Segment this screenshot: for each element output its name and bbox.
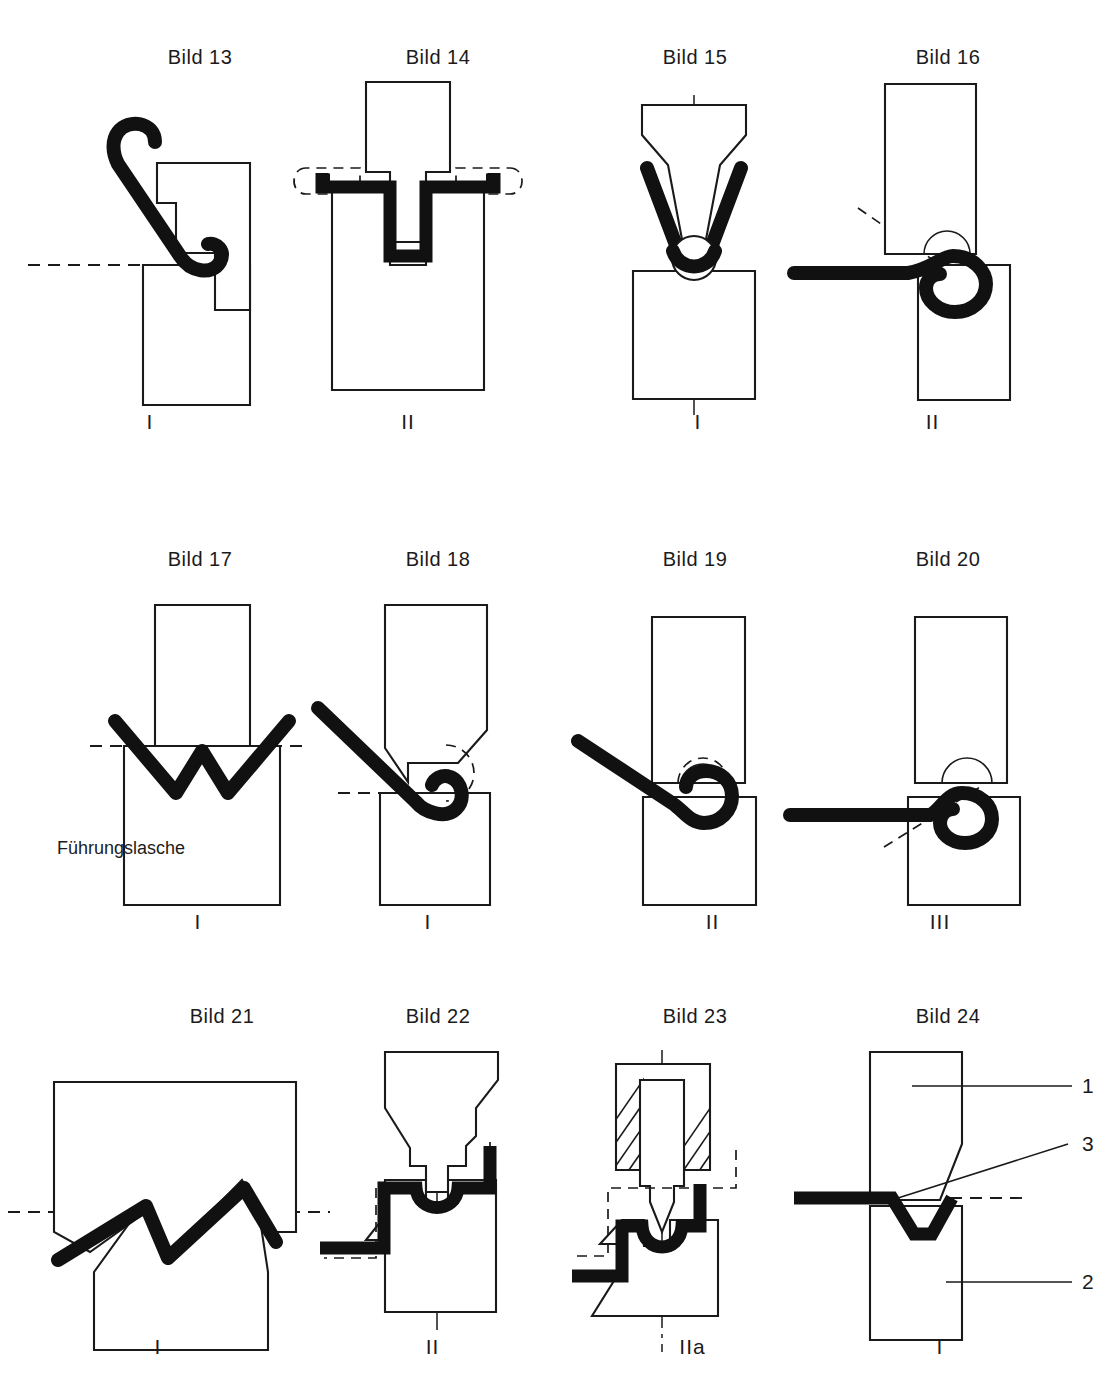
punch <box>385 1052 498 1192</box>
figure-bild-14 <box>260 60 560 410</box>
figure-bild-13 <box>0 60 300 410</box>
figure-roman-bild-23: IIa <box>665 1335 720 1359</box>
callout-label-2: 2 <box>1082 1270 1094 1294</box>
figure-roman-bild-21: I <box>138 1335 178 1359</box>
figure-bild-16 <box>790 60 1110 410</box>
upper-punch <box>870 1052 962 1200</box>
lower-die <box>592 1220 718 1316</box>
fuehrungslasche-label: Führungslasche <box>57 838 185 859</box>
callout-label-1: 1 <box>1082 1074 1094 1098</box>
drawing-plate: Bild 13 I Bild 14 <box>0 0 1110 1390</box>
figure-roman-bild-13: I <box>130 410 170 434</box>
plunger <box>640 1080 684 1232</box>
lower-die <box>643 797 756 905</box>
figure-bild-18 <box>260 565 560 925</box>
figure-roman-bild-18: I <box>408 910 448 934</box>
callout-label-3: 3 <box>1082 1132 1094 1156</box>
chamfered-punch <box>385 605 487 782</box>
figure-bild-20 <box>790 565 1110 925</box>
lower-die <box>633 271 755 399</box>
upper-die <box>885 84 976 254</box>
figure-roman-bild-24: I <box>920 1335 960 1359</box>
figure-bild-24 <box>810 1020 1110 1360</box>
figure-roman-bild-14: II <box>388 410 428 434</box>
figure-roman-bild-20: III <box>915 910 965 934</box>
figure-roman-bild-15: I <box>678 410 718 434</box>
figure-roman-bild-16: II <box>910 410 955 434</box>
figure-bild-21 <box>0 1020 340 1360</box>
figure-roman-bild-22: II <box>410 1335 455 1359</box>
upper-punch <box>155 605 250 746</box>
figure-roman-bild-17: I <box>178 910 218 934</box>
figure-bild-22 <box>300 1020 580 1360</box>
figure-roman-bild-19: II <box>690 910 735 934</box>
